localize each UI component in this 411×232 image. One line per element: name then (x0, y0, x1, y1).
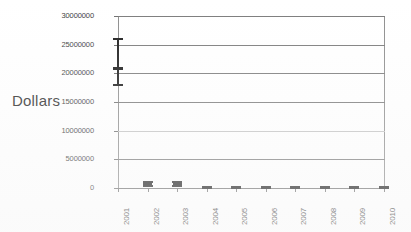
y-tick-label: 25000000 (61, 40, 94, 49)
error-bar-stem (117, 39, 119, 85)
y-tick-mark (114, 131, 118, 132)
data-point-box (380, 186, 389, 189)
x-tick-label: 2009 (358, 208, 367, 225)
data-point-box (202, 186, 211, 189)
x-tick-label: 2001 (122, 208, 131, 225)
gridline (118, 159, 385, 160)
y-tick-label: 15000000 (61, 97, 94, 106)
y-tick-mark (114, 102, 118, 103)
chart-figure: Dollars 20012002200320042005200620072008… (0, 0, 411, 232)
y-tick-label: 30000000 (61, 11, 94, 20)
data-point-box (350, 186, 359, 189)
x-tick-label: 2003 (181, 208, 190, 225)
error-bar-cap-upper (113, 38, 123, 40)
gridline (118, 73, 385, 74)
x-tick-label: 2005 (240, 208, 249, 225)
error-bar-cap-lower (113, 84, 123, 86)
plot-area: 2001200220032004200520062007200820092010… (118, 16, 385, 188)
x-tick-label: 2008 (329, 208, 338, 225)
x-tick-mark (118, 188, 119, 192)
gridline (118, 16, 385, 17)
y-tick-label: 10000000 (61, 126, 94, 135)
data-point-box (113, 67, 123, 70)
gridline (118, 45, 385, 46)
x-tick-label: 2004 (211, 208, 220, 225)
data-point-box (232, 186, 241, 189)
y-tick-label: 5000000 (66, 154, 95, 163)
x-tick-label: 2010 (388, 208, 397, 225)
data-point-box (320, 186, 329, 189)
y-tick-mark (114, 16, 118, 17)
y-tick-mark (114, 159, 118, 160)
data-point-box (173, 182, 182, 185)
y-axis-title: Dollars (12, 92, 60, 109)
x-tick-mark (148, 188, 149, 192)
y-tick-label: 20000000 (61, 68, 94, 77)
data-point-box (261, 186, 270, 189)
gridline (118, 131, 385, 132)
data-point-box (291, 186, 300, 189)
gridline (118, 102, 385, 103)
x-tick-label: 2007 (299, 208, 308, 225)
x-tick-label: 2002 (152, 208, 161, 225)
y-tick-label: 0 (90, 183, 94, 192)
x-axis-line (118, 188, 385, 189)
data-point-box (143, 182, 152, 185)
x-tick-mark (177, 188, 178, 192)
x-tick-label: 2006 (270, 208, 279, 225)
